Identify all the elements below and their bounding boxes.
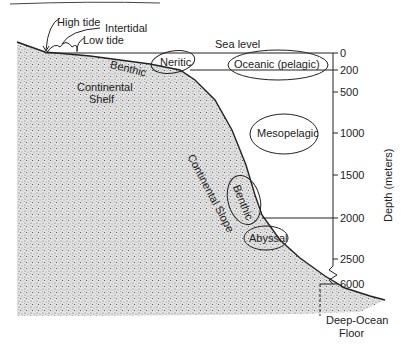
deep-ocean-label-line1: Deep-Ocean bbox=[326, 314, 388, 326]
continental-shelf-label-line1: Continental bbox=[77, 81, 133, 93]
axis-ticks bbox=[333, 53, 338, 284]
tick-1000: 1000 bbox=[340, 127, 364, 139]
sea-level-label: Sea level bbox=[215, 38, 260, 50]
tick-2500: 2500 bbox=[340, 253, 364, 265]
abyssal-label: Abyssal bbox=[249, 232, 288, 244]
continental-shelf-label-line2: Shelf bbox=[89, 93, 114, 105]
low-tide-label: Low tide bbox=[83, 34, 124, 46]
tick-1500: 1500 bbox=[340, 169, 364, 181]
tick-6000: 6000 bbox=[340, 278, 364, 290]
neritic-label: Neritic bbox=[160, 56, 191, 68]
page-edge-line bbox=[10, 2, 160, 4]
oceanic-label: Oceanic (pelagic) bbox=[234, 58, 320, 70]
tick-2000: 2000 bbox=[340, 212, 364, 224]
deep-ocean-label-line2: Floor bbox=[339, 327, 364, 339]
high-tide-label: High tide bbox=[57, 16, 100, 28]
tick-200: 200 bbox=[340, 64, 358, 76]
mesopelagic-label: Mesopelagic bbox=[257, 127, 319, 139]
tick-500: 500 bbox=[340, 86, 358, 98]
tick-0: 0 bbox=[340, 47, 346, 59]
depth-axis bbox=[329, 53, 337, 284]
intertidal-label: Intertidal bbox=[105, 22, 147, 34]
depth-axis-title: Depth (meters) bbox=[382, 149, 394, 222]
